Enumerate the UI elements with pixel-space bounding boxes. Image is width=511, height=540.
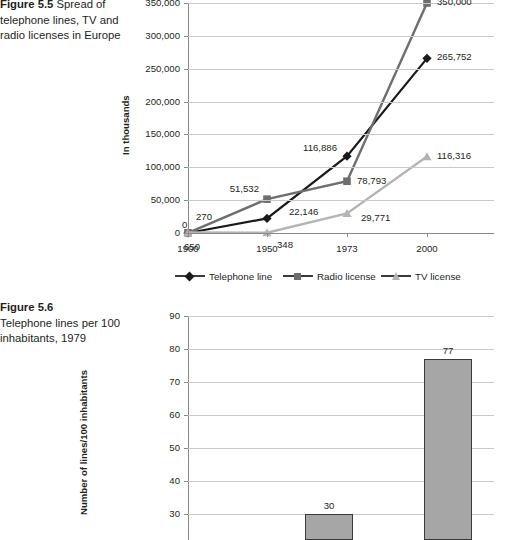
bar-chart-y-tick-label: 40 [152, 475, 180, 486]
bar-chart-y-tick [184, 514, 188, 515]
line-chart-legend: Telephone lineRadio licenseTV license [175, 268, 475, 284]
line-chart-y-tick [184, 69, 188, 70]
legend-item-telephone-line: Telephone line [175, 268, 272, 284]
line-chart-data-label: 116,886 [303, 142, 337, 153]
line-chart-x-tick [427, 233, 428, 237]
line-chart-y-tick-label: 250,000 [132, 63, 180, 74]
legend-item-tv-license: TV license [381, 268, 461, 284]
line-chart-telephone-tv-radio: In thousands 050,000100,000150,000200,00… [0, 0, 511, 255]
bar-chart-y-tick [184, 349, 188, 350]
bar-chart-plot-area: 304050607080903077 [188, 316, 494, 540]
legend-label: Telephone line [209, 271, 272, 282]
bar-chart-y-tick [184, 415, 188, 416]
line-chart-data-label: 29,771 [361, 212, 390, 223]
bar-chart-lines-per-100-inhabitants: Number of lines/100 inhabitants 30405060… [0, 300, 511, 540]
line-chart-x-tick [347, 233, 348, 237]
line-chart-x-axis [188, 233, 494, 234]
line-chart-marker-triangle [422, 152, 431, 160]
line-chart-gridline [188, 36, 494, 37]
line-chart-data-label: 650 [184, 241, 200, 252]
line-chart-y-tick-label: 100,000 [132, 161, 180, 172]
line-chart-y-tick-label: 200,000 [132, 96, 180, 107]
bar-chart-y-tick-label: 90 [152, 310, 180, 321]
line-chart-marker-square [343, 177, 351, 185]
bar-chart-y-tick [184, 481, 188, 482]
line-chart-gridline [188, 102, 494, 103]
legend-marker-square [294, 273, 301, 280]
line-chart-y-tick-label: 150,000 [132, 128, 180, 139]
bar-chart-y-tick-label: 70 [152, 376, 180, 387]
legend-swatch-triangle [381, 271, 411, 281]
line-chart-gridline [188, 200, 494, 201]
bar-chart-bar [424, 359, 472, 540]
line-chart-data-label: 116,316 [437, 150, 471, 161]
line-chart-y-tick [184, 134, 188, 135]
bar-chart-bar [305, 514, 353, 540]
line-chart-x-tick [188, 233, 189, 237]
legend-swatch-square [283, 271, 313, 281]
bar-chart-y-tick [184, 382, 188, 383]
line-chart-y-tick [184, 36, 188, 37]
line-chart-data-label: 270 [196, 211, 212, 222]
bar-chart-y-tick-label: 50 [152, 442, 180, 453]
line-chart-y-tick [184, 200, 188, 201]
line-chart-x-tick-label: 2000 [397, 243, 457, 254]
line-chart-data-label: 350,000 [437, 0, 472, 7]
legend-item-radio-license: Radio license [283, 268, 376, 284]
bar-chart-value-label: 77 [423, 345, 473, 356]
line-chart-y-tick-label: 0 [132, 227, 180, 238]
bar-chart-y-tick [184, 448, 188, 449]
legend-marker-diamond [185, 272, 195, 282]
bar-chart-y-tick [184, 316, 188, 317]
line-chart-data-label: 265,752 [437, 51, 472, 62]
line-chart-y-tick [184, 3, 188, 4]
legend-label: TV license [415, 271, 461, 282]
line-chart-x-tick-label: 1973 [317, 243, 377, 254]
line-chart-y-axis-title: In thousands [120, 95, 131, 155]
legend-label: Radio license [317, 271, 376, 282]
line-chart-y-tick [184, 102, 188, 103]
line-chart-x-tick [267, 233, 268, 237]
bar-chart-y-tick-label: 30 [152, 508, 180, 519]
line-chart-gridline [188, 134, 494, 135]
bar-chart-y-tick-label: 80 [152, 343, 180, 354]
figure-page: Figure 5.5 Spread of telephone lines, TV… [0, 0, 511, 540]
line-chart-data-label: 78,793 [357, 175, 386, 186]
line-chart-marker-square [263, 195, 271, 203]
line-chart-data-label: 0 [182, 219, 187, 230]
line-chart-y-tick [184, 167, 188, 168]
line-chart-data-label: 22,146 [289, 206, 318, 217]
line-chart-series-radio-license [188, 3, 427, 233]
bar-chart-value-label: 30 [304, 500, 354, 511]
legend-marker-triangle [392, 272, 400, 280]
line-chart-y-tick-label: 350,000 [132, 0, 180, 8]
line-chart-data-label: 348 [277, 239, 293, 250]
bar-chart-gridline [188, 316, 494, 317]
line-chart-y-axis [188, 3, 189, 233]
line-chart-y-tick-label: 50,000 [132, 194, 180, 205]
line-chart-gridline [188, 167, 494, 168]
line-chart-plot-area: 050,000100,000150,000200,000250,000300,0… [188, 3, 494, 233]
legend-swatch-diamond [175, 271, 205, 281]
bar-chart-y-axis-title: Number of lines/100 inhabitants [78, 370, 89, 515]
line-chart-series-svg [188, 3, 494, 233]
line-chart-gridline [188, 69, 494, 70]
bar-chart-y-tick-label: 60 [152, 409, 180, 420]
line-chart-y-tick-label: 300,000 [132, 30, 180, 41]
line-chart-data-label: 51,532 [230, 183, 259, 194]
